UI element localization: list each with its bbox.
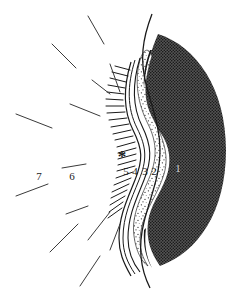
figure-container: * 1 2 3 4 5 6 7 <box>0 0 248 296</box>
label-1: 1 <box>176 163 181 174</box>
label-3: 3 <box>142 165 148 177</box>
anatomical-cross-section-figure: * 1 2 3 4 5 6 7 <box>0 0 248 296</box>
label-5: 5 <box>123 165 129 177</box>
label-7: 7 <box>36 170 42 182</box>
label-2: 2 <box>151 165 157 177</box>
label-4: 4 <box>132 165 138 177</box>
asterisk-marker: * <box>118 147 127 166</box>
label-6: 6 <box>69 170 75 182</box>
